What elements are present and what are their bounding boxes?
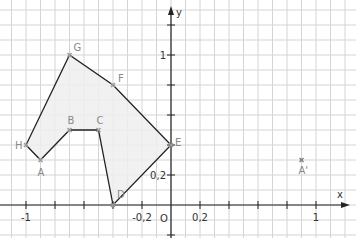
vertex-label-G: G [74, 42, 82, 53]
coordinate-diagram: xyO-1-0,20,210,21ABCDEFGHA' [0, 0, 356, 238]
vertex-label-H: H [15, 140, 23, 151]
vertex-label-F: F [118, 73, 124, 84]
vertex-label-E: E [175, 137, 181, 148]
vertex-label-B: B [68, 115, 75, 126]
point-label-A-prime: A' [299, 165, 309, 176]
y-tick-label: 1 [160, 50, 166, 61]
vertex-label-C: C [97, 115, 104, 126]
x-axis-label: x [337, 189, 343, 200]
y-axis-label: y [176, 7, 182, 18]
x-tick-label: 0,2 [192, 212, 208, 223]
x-tick-label: 1 [313, 212, 319, 223]
vertex-label-A: A [38, 167, 45, 178]
y-tick-label: 0,2 [150, 170, 166, 181]
vertex-label-D: D [117, 189, 125, 200]
diagram-canvas: xyO-1-0,20,210,21ABCDEFGHA' [0, 0, 356, 238]
x-tick-label: -0,2 [132, 212, 152, 223]
origin-label: O [160, 213, 168, 224]
x-tick-label: -1 [21, 212, 31, 223]
